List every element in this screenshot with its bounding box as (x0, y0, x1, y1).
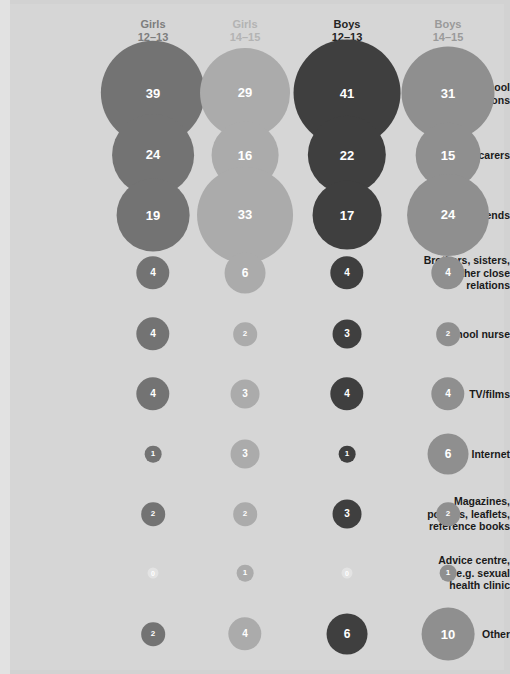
bubble-value: 24 (146, 149, 160, 162)
bubble-girls-14-15-internet: 3 (231, 440, 260, 469)
bubble-value: 3 (344, 329, 350, 339)
bubble-value: 4 (344, 389, 350, 399)
bubble-value: 17 (340, 209, 354, 222)
bubble-value: 1 (345, 450, 349, 458)
bubble-value: 33 (238, 208, 252, 221)
bubble-value: 3 (242, 449, 248, 459)
bubble-value: 31 (441, 87, 455, 100)
bubble-girls-12-13-friends: 19 (117, 179, 190, 252)
bubble-value: 41 (340, 86, 354, 99)
bubble-value: 2 (243, 510, 247, 518)
bubble-value: 15 (441, 148, 455, 161)
bubble-value: 3 (242, 389, 248, 399)
bubble-girls-14-15-magazines-posters: 2 (233, 502, 257, 526)
bubble-value: 16 (238, 148, 252, 161)
bubble-value: 10 (441, 627, 455, 640)
bubble-value: 6 (445, 448, 452, 460)
bubble-girls-12-13-advice-centre: 0 (148, 568, 159, 579)
bubble-chart: Girls 12–13Girls 14–15Boys 12–13Boys 14–… (0, 0, 510, 674)
column-header-boys-14-15: Boys 14–15 (393, 18, 503, 44)
bubble-value: 24 (441, 209, 455, 222)
bubble-boys-14-15-school-nurse: 2 (436, 322, 460, 346)
bubble-boys-14-15-internet: 6 (428, 434, 469, 475)
bubble-value: 0 (345, 570, 349, 577)
bubble-boys-12-13-internet: 1 (339, 446, 356, 463)
bubble-boys-14-15-magazines-posters: 2 (436, 502, 460, 526)
bubble-value: 4 (150, 389, 156, 399)
bubble-girls-14-15-tv-films: 3 (231, 380, 260, 409)
bubble-value: 4 (242, 629, 248, 639)
bubble-girls-12-13-internet: 1 (145, 446, 162, 463)
bubble-value: 1 (446, 569, 450, 577)
bubble-value: 4 (344, 268, 350, 278)
bubble-value: 1 (151, 450, 155, 458)
bubble-boys-14-15-other: 10 (422, 608, 475, 661)
bubble-value: 4 (150, 268, 156, 278)
bubble-boys-12-13-advice-centre: 0 (342, 568, 353, 579)
bubble-value: 6 (242, 267, 249, 279)
bubble-value: 2 (151, 510, 155, 518)
bubble-girls-14-15-school-nurse: 2 (233, 322, 257, 346)
bubble-value: 4 (445, 389, 451, 399)
bubble-value: 6 (344, 628, 351, 640)
bubble-boys-14-15-friends: 24 (407, 174, 489, 256)
column-header-girls-14-15: Girls 14–15 (190, 18, 300, 44)
bubble-girls-14-15-advice-centre: 1 (237, 565, 254, 582)
left-edge-band (0, 0, 10, 674)
bubble-value: 39 (146, 87, 160, 100)
bubble-value: 22 (340, 148, 354, 161)
bubble-value: 3 (344, 509, 350, 519)
bubble-girls-12-13-other: 2 (141, 622, 165, 646)
bubble-value: 1 (243, 569, 247, 577)
bubble-value: 2 (243, 330, 247, 338)
bubble-value: 4 (150, 329, 156, 339)
bubble-value: 2 (151, 630, 155, 638)
bubble-boys-12-13-school-nurse: 3 (333, 320, 362, 349)
bubble-girls-12-13-magazines-posters: 2 (141, 502, 165, 526)
bubble-girls-14-15-brothers-sisters: 6 (225, 253, 266, 294)
bubble-value: 0 (151, 570, 155, 577)
bubble-value: 2 (446, 330, 450, 338)
bubble-boys-12-13-magazines-posters: 3 (333, 500, 362, 529)
bubble-value: 29 (238, 86, 252, 99)
bubble-value: 4 (445, 268, 451, 278)
bubble-girls-14-15-friends: 33 (197, 167, 293, 263)
bubble-value: 19 (146, 209, 160, 222)
bubble-boys-12-13-other: 6 (327, 614, 368, 655)
bubble-value: 2 (446, 510, 450, 518)
bubble-boys-14-15-advice-centre: 1 (440, 565, 457, 582)
bubble-boys-12-13-friends: 17 (313, 181, 382, 250)
